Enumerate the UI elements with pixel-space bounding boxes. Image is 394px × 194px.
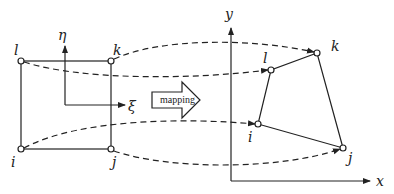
eta-label: η: [58, 27, 67, 43]
label-k-ref: k: [113, 42, 121, 58]
mapping-diagram: η ξ l k i j mapping y x l k i j: [0, 0, 394, 194]
node-l-phys: [268, 67, 274, 73]
y-axis-label: y: [224, 6, 234, 22]
mapping-arrow: mapping: [152, 82, 200, 118]
xi-label: ξ: [128, 98, 137, 114]
node-k-ref: [108, 58, 114, 64]
reference-element: η ξ l k i j: [11, 27, 137, 170]
label-j-phys: j: [345, 150, 353, 166]
label-j-ref: j: [109, 154, 117, 170]
mapping-label: mapping: [160, 94, 195, 105]
node-i-phys: [255, 121, 261, 127]
label-i-ref: i: [11, 154, 15, 170]
label-k-phys: k: [331, 38, 339, 54]
node-j-ref: [108, 146, 114, 152]
curve-k: [114, 42, 314, 59]
label-l-ref: l: [14, 42, 18, 58]
x-axis-label: x: [376, 173, 384, 189]
node-l-ref: [18, 58, 24, 64]
label-l-phys: l: [263, 50, 267, 66]
node-i-ref: [18, 146, 24, 152]
label-i-phys: i: [248, 129, 252, 145]
curve-i: [24, 121, 255, 148]
curve-j: [114, 149, 340, 165]
node-k-phys: [314, 50, 320, 56]
physical-element: y x l k i j: [224, 6, 384, 189]
node-j-phys: [340, 145, 346, 151]
